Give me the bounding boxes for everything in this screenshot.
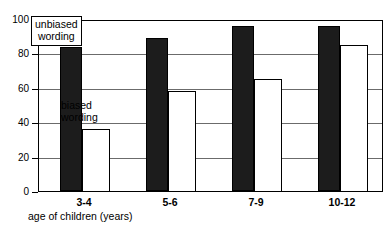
annotation-unbiased-wording: unbiased wording — [31, 16, 82, 46]
y-tick-label-80: 80 — [18, 49, 29, 59]
bar-unbiased-7-9 — [232, 26, 254, 191]
annotation-biased-wording: biased wording — [61, 100, 98, 123]
annotation-unbiased-line2: wording — [38, 30, 75, 42]
x-tick-label-7-9: 7-9 — [248, 196, 263, 208]
bar-biased-7-9 — [254, 79, 282, 191]
x-axis-title: age of children (years) — [28, 210, 132, 222]
bar-biased-3-4 — [82, 129, 110, 191]
y-tick-label-100: 100 — [12, 15, 29, 25]
x-tick-label-5-6: 5-6 — [162, 196, 177, 208]
bar-chart: 100 80 60 40 20 0 unbiased — [0, 0, 387, 241]
x-tick-label-3-4: 3-4 — [76, 196, 91, 208]
y-tick-label-20: 20 — [18, 153, 29, 163]
annotation-biased-line2: wording — [61, 111, 98, 123]
annotation-biased-line1: biased — [61, 99, 92, 111]
y-tick-label-60: 60 — [18, 84, 29, 94]
bar-unbiased-5-6 — [146, 38, 168, 191]
y-tick-mark-0 — [32, 192, 38, 193]
bar-biased-5-6 — [168, 91, 196, 191]
bar-unbiased-10-12 — [318, 26, 340, 191]
bar-biased-10-12 — [340, 45, 368, 191]
annotation-unbiased-line1: unbiased — [35, 18, 78, 30]
y-tick-label-0: 0 — [23, 187, 29, 197]
y-tick-label-40: 40 — [18, 118, 29, 128]
x-tick-label-10-12: 10-12 — [329, 196, 356, 208]
